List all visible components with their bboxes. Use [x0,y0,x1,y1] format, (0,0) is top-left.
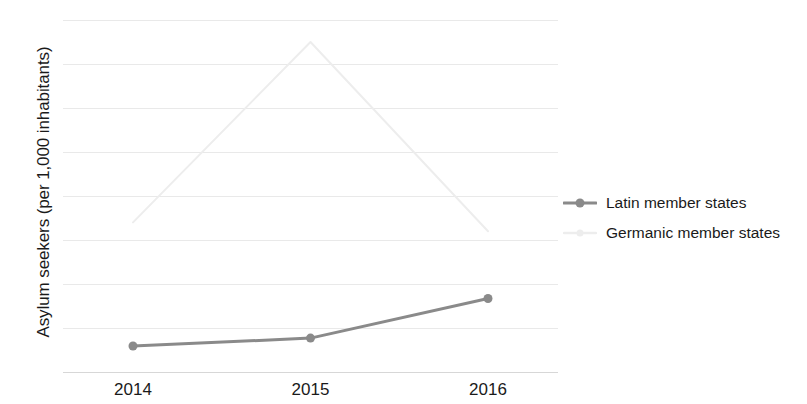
plot-area: 012345678 201420152016 [63,20,558,372]
legend-item[interactable]: Latin member states [563,188,807,218]
y-axis-title: Asylum seekers (per 1,000 inhabitants) [34,2,54,382]
data-point-marker [306,334,315,343]
data-point-marker [129,342,138,351]
x-axis-line [63,372,558,373]
series-line [133,42,488,231]
line-chart: Asylum seekers (per 1,000 inhabitants) 0… [0,0,807,404]
legend-label: Latin member states [606,194,746,212]
legend-label: Germanic member states [606,224,780,242]
legend-swatch-icon [563,196,597,210]
legend-swatch-icon [563,226,597,240]
x-axis-tick-label: 2014 [88,380,178,400]
x-axis-tick-label: 2015 [266,380,356,400]
data-point-marker [484,294,493,303]
x-axis-tick-label: 2016 [443,380,533,400]
legend-item[interactable]: Germanic member states [563,218,807,248]
chart-legend: Latin member statesGermanic member state… [563,188,807,248]
series-layer [63,20,558,372]
